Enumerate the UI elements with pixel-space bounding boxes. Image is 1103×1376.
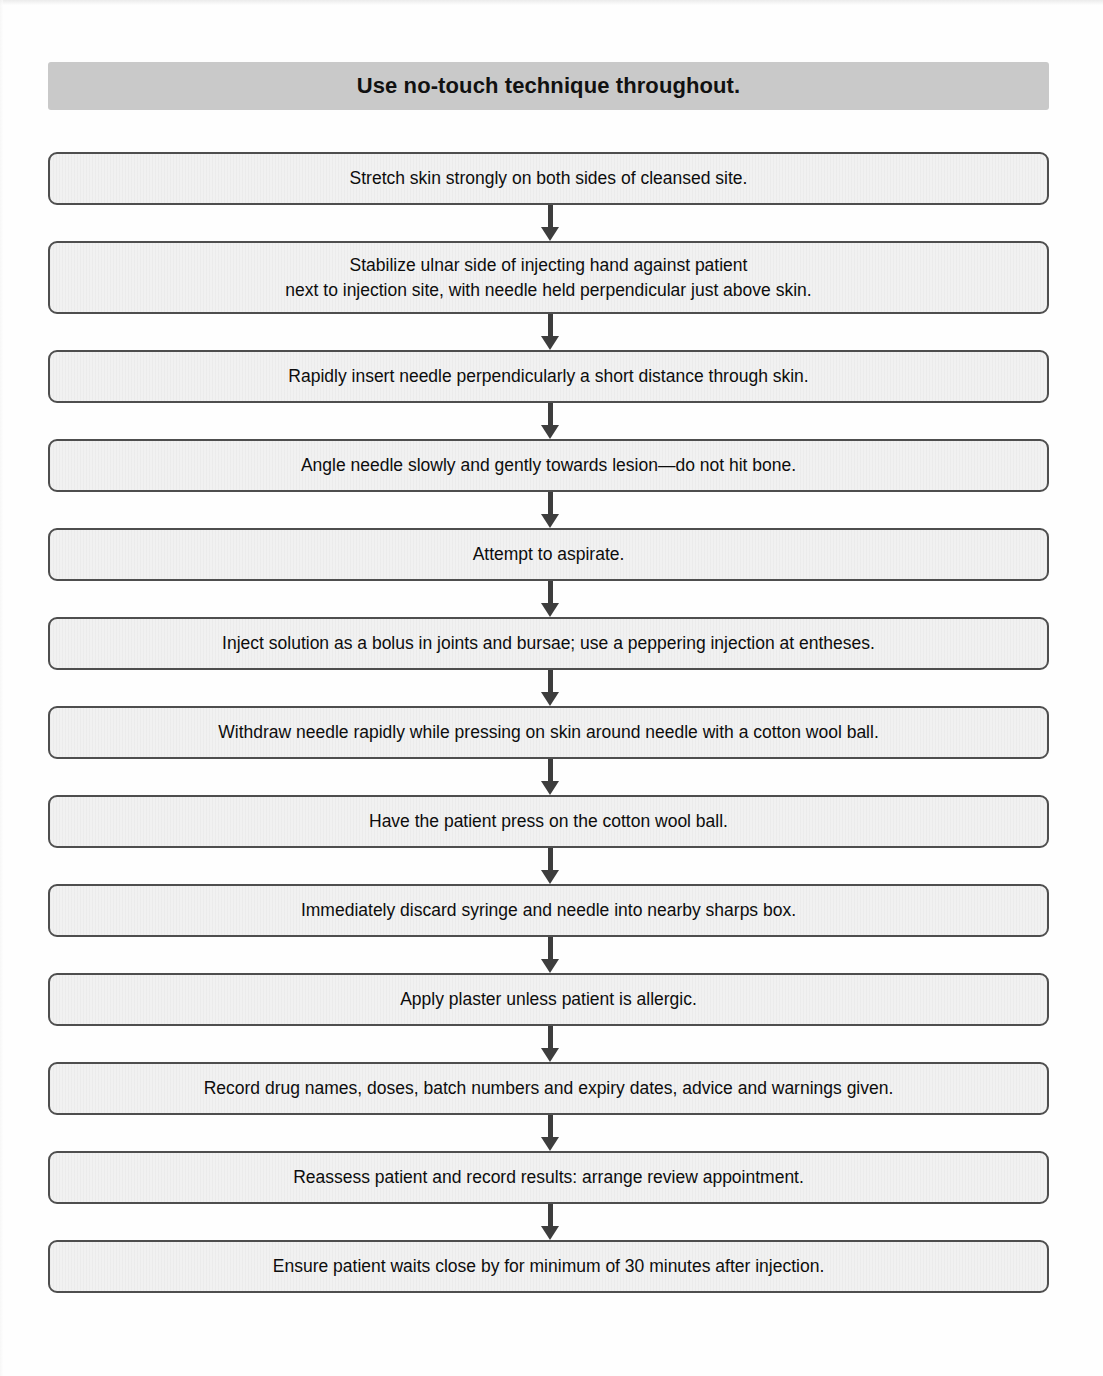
flow-connector-6-7: [48, 670, 1049, 706]
flowchart: Use no-touch technique throughout. Stret…: [48, 62, 1049, 1293]
flow-node-12: Reassess patient and record results: arr…: [48, 1151, 1049, 1204]
arrow-stem-icon: [548, 759, 553, 783]
arrow-stem-icon: [548, 670, 553, 694]
title-banner: Use no-touch technique throughout.: [48, 62, 1049, 110]
flow-node-1: Stretch skin strongly on both sides of c…: [48, 152, 1049, 205]
flow-node-13: Ensure patient waits close by for minimu…: [48, 1240, 1049, 1293]
flow-connector-12-13: [48, 1204, 1049, 1240]
flow-node-4-text: Angle needle slowly and gently towards l…: [301, 453, 796, 478]
flow-connector-5-6: [48, 581, 1049, 617]
flow-node-6: Inject solution as a bolus in joints and…: [48, 617, 1049, 670]
flow-node-5: Attempt to aspirate.: [48, 528, 1049, 581]
arrow-down-icon: [541, 1137, 559, 1151]
flow-node-6-text: Inject solution as a bolus in joints and…: [222, 631, 875, 656]
flow-node-10: Apply plaster unless patient is allergic…: [48, 973, 1049, 1026]
arrow-stem-icon: [548, 492, 553, 516]
flow-connector-10-11: [48, 1026, 1049, 1062]
arrow-stem-icon: [548, 1026, 553, 1050]
flow-node-10-text: Apply plaster unless patient is allergic…: [400, 987, 697, 1012]
arrow-stem-icon: [548, 848, 553, 872]
banner-gap: [48, 110, 1049, 152]
flow-connector-4-5: [48, 492, 1049, 528]
flow-node-8: Have the patient press on the cotton woo…: [48, 795, 1049, 848]
flow-node-3: Rapidly insert needle perpendicularly a …: [48, 350, 1049, 403]
arrow-down-icon: [541, 781, 559, 795]
arrow-down-icon: [541, 603, 559, 617]
flow-connector-7-8: [48, 759, 1049, 795]
flow-node-2-text: Stabilize ulnar side of injecting hand a…: [285, 253, 811, 303]
arrow-down-icon: [541, 227, 559, 241]
arrow-down-icon: [541, 514, 559, 528]
arrow-down-icon: [541, 870, 559, 884]
flow-connector-11-12: [48, 1115, 1049, 1151]
flow-node-8-text: Have the patient press on the cotton woo…: [369, 809, 728, 834]
flow-node-5-text: Attempt to aspirate.: [473, 542, 625, 567]
arrow-stem-icon: [548, 1204, 553, 1228]
flow-connector-9-10: [48, 937, 1049, 973]
arrow-stem-icon: [548, 314, 553, 338]
flow-node-12-text: Reassess patient and record results: arr…: [293, 1165, 804, 1190]
arrow-stem-icon: [548, 403, 553, 427]
arrow-down-icon: [541, 692, 559, 706]
arrow-stem-icon: [548, 1115, 553, 1139]
flow-connector-1-2: [48, 205, 1049, 241]
title-banner-text: Use no-touch technique throughout.: [357, 75, 740, 97]
arrow-down-icon: [541, 425, 559, 439]
arrow-stem-icon: [548, 581, 553, 605]
flow-node-4: Angle needle slowly and gently towards l…: [48, 439, 1049, 492]
flow-connector-8-9: [48, 848, 1049, 884]
arrow-down-icon: [541, 1048, 559, 1062]
flow-node-13-text: Ensure patient waits close by for minimu…: [273, 1254, 825, 1279]
flow-node-7-text: Withdraw needle rapidly while pressing o…: [218, 720, 879, 745]
flow-node-9: Immediately discard syringe and needle i…: [48, 884, 1049, 937]
flow-connector-2-3: [48, 314, 1049, 350]
arrow-stem-icon: [548, 937, 553, 961]
flow-node-11-text: Record drug names, doses, batch numbers …: [204, 1076, 894, 1101]
scan-edge-top: [0, 0, 1103, 5]
flow-node-11: Record drug names, doses, batch numbers …: [48, 1062, 1049, 1115]
arrow-down-icon: [541, 336, 559, 350]
flow-node-9-text: Immediately discard syringe and needle i…: [301, 898, 796, 923]
scan-edge-left: [0, 0, 3, 1376]
flow-node-3-text: Rapidly insert needle perpendicularly a …: [288, 364, 808, 389]
flow-node-7: Withdraw needle rapidly while pressing o…: [48, 706, 1049, 759]
flow-node-1-text: Stretch skin strongly on both sides of c…: [350, 166, 748, 191]
flowchart-page: Use no-touch technique throughout. Stret…: [0, 0, 1103, 1376]
arrow-down-icon: [541, 959, 559, 973]
arrow-stem-icon: [548, 205, 553, 229]
flow-node-2: Stabilize ulnar side of injecting hand a…: [48, 241, 1049, 314]
arrow-down-icon: [541, 1226, 559, 1240]
flow-connector-3-4: [48, 403, 1049, 439]
